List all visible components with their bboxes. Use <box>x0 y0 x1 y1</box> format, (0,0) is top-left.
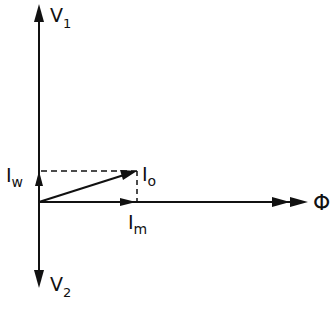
io-vector <box>39 170 137 202</box>
flux-arrow-icon-2 <box>290 197 308 207</box>
label-v1: V1 <box>50 4 71 31</box>
flux-axis <box>39 197 308 207</box>
io-arrow-icon <box>120 170 137 180</box>
label-iw: Iw <box>6 164 23 190</box>
label-phi: Φ <box>313 190 330 215</box>
label-v2: V2 <box>50 273 71 300</box>
phasor-diagram: V1 V2 Iw Io Im Φ <box>0 0 333 311</box>
v2-vector <box>34 202 44 288</box>
label-im: Im <box>128 211 147 237</box>
label-io: Io <box>142 163 156 189</box>
v2-arrow-icon <box>34 270 44 288</box>
v1-arrow-icon <box>34 4 44 22</box>
flux-arrow-icon-1 <box>272 197 290 207</box>
iw-arrow-icon <box>35 171 43 186</box>
im-arrow-icon <box>120 198 136 206</box>
